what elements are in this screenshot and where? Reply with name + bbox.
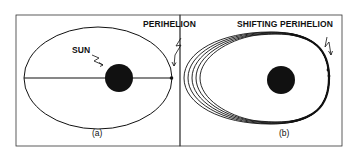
orbit-ellipse-4 [196,34,329,123]
panel-b-caption: (b) [279,128,289,138]
perihelion-point-b2 [328,75,331,78]
sun-icon-b [267,66,295,94]
sun-icon [105,64,133,92]
orbit-ellipse-3 [192,33,329,123]
converging-orbit-edge [290,34,329,122]
panel-a-frame [16,15,180,146]
sun-label: SUN [72,45,90,55]
perihelion-point-b1 [327,69,330,72]
panel-b-diagram [184,32,329,124]
shifting-perihelion-label: SHIFTING PERIHELION [237,19,333,29]
perihelion-point [170,76,174,80]
shifting-perihelion-pointer-arrow [325,37,331,55]
panel-a-caption: (a) [92,128,102,138]
orbit-ellipse-1 [184,32,329,124]
orbit-ellipse-5 [200,34,329,122]
perihelion-label: PERIHELION [143,19,196,29]
panel-a-diagram [24,27,181,129]
orbit-ellipse-2 [188,32,329,123]
